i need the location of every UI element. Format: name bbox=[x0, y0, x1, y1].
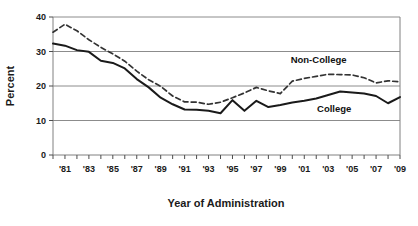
y-tick-label: 20 bbox=[36, 81, 46, 91]
line-chart: 010203040 '81'83'85'87'89'91'93'95'97'99… bbox=[0, 0, 418, 226]
x-tick-label: '97 bbox=[250, 164, 262, 174]
x-tick-label: '01 bbox=[298, 164, 310, 174]
y-axis-ticks: 010203040 bbox=[36, 12, 53, 160]
series-label-non-college: Non-College bbox=[291, 54, 347, 65]
y-tick-label: 40 bbox=[36, 12, 46, 22]
y-tick-label: 30 bbox=[36, 47, 46, 57]
x-tick-label: '05 bbox=[346, 164, 358, 174]
y-axis-title: Percent bbox=[4, 65, 16, 106]
x-tick-label: '99 bbox=[274, 164, 286, 174]
x-tick-label: '89 bbox=[155, 164, 167, 174]
x-tick-label: '83 bbox=[83, 164, 95, 174]
y-tick-label: 0 bbox=[41, 150, 46, 160]
x-tick-label: '81 bbox=[59, 164, 71, 174]
y-tick-label: 10 bbox=[36, 116, 46, 126]
x-tick-label: '91 bbox=[179, 164, 191, 174]
x-tick-label: '07 bbox=[370, 164, 382, 174]
x-tick-label: '93 bbox=[202, 164, 214, 174]
x-axis-ticks bbox=[53, 155, 400, 159]
series-label-college: College bbox=[317, 103, 351, 114]
x-axis-tick-labels: '81'83'85'87'89'91'93'95'97'99'01'03'05'… bbox=[59, 164, 406, 174]
x-tick-label: '03 bbox=[322, 164, 334, 174]
chart-container: 010203040 '81'83'85'87'89'91'93'95'97'99… bbox=[0, 0, 418, 226]
x-tick-label: '85 bbox=[107, 164, 119, 174]
x-axis-title: Year of Administration bbox=[168, 197, 285, 209]
x-tick-label: '09 bbox=[394, 164, 406, 174]
x-tick-label: '87 bbox=[131, 164, 143, 174]
x-tick-label: '95 bbox=[226, 164, 238, 174]
